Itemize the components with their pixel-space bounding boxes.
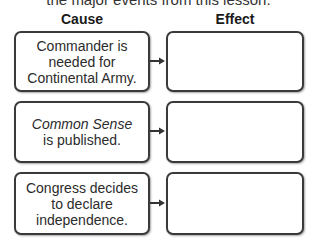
cause-3-line-1: Congress decides xyxy=(26,180,138,196)
cause-3-line-2: to declare xyxy=(26,196,138,212)
cause-box-2: Common Sense is published. xyxy=(14,101,150,163)
cause-header: Cause xyxy=(14,11,150,27)
cause-2-rest: is published. xyxy=(32,132,132,148)
effect-box-2[interactable] xyxy=(166,101,304,163)
cause-2-title: Common Sense xyxy=(32,116,132,132)
effect-header: Effect xyxy=(166,11,304,27)
cause-3-line-3: independence. xyxy=(26,212,138,228)
arrow-right-icon xyxy=(150,57,166,65)
intro-text: the major events from this lesson. xyxy=(0,0,317,8)
cause-box-3: Congress decides to declare independence… xyxy=(14,172,150,235)
arrow-right-icon xyxy=(150,199,166,207)
effect-box-1[interactable] xyxy=(166,31,304,92)
cause-1-line-1: Commander is xyxy=(27,38,136,54)
cause-1-line-3: Continental Army. xyxy=(27,70,136,86)
cause-1-line-2: needed for xyxy=(27,54,136,70)
cause-box-1: Commander is needed for Continental Army… xyxy=(14,31,150,92)
effect-box-3[interactable] xyxy=(166,172,304,235)
arrow-right-icon xyxy=(150,127,166,135)
